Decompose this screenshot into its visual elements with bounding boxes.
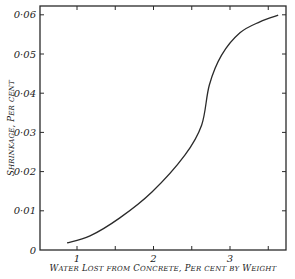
- y-axis-ticks: 00·010·020·030·040·050·06: [14, 9, 286, 255]
- x-axis-title: WATER LOST FROM CONCRETE, PER CENT BY WE…: [50, 263, 278, 273]
- y-axis-title: SHRINKAGE, PER CENT: [6, 79, 16, 176]
- y-tick-label: 0·04: [14, 88, 36, 99]
- y-tick-label: 0·05: [14, 49, 36, 60]
- shrinkage-curve: [67, 15, 278, 243]
- shrinkage-chart: 00·010·020·030·040·050·06 123 SHRINKAGE,…: [0, 0, 295, 279]
- x-axis-ticks: 123: [74, 6, 268, 264]
- y-tick-label: 0·02: [14, 166, 36, 177]
- x-tick-label: 2: [149, 253, 156, 264]
- y-tick-label: 0·06: [14, 9, 37, 20]
- y-tick-label: 0: [30, 245, 37, 256]
- y-tick-label: 0·03: [14, 127, 36, 138]
- y-tick-label: 0·01: [14, 205, 36, 216]
- plot-frame: [40, 6, 286, 250]
